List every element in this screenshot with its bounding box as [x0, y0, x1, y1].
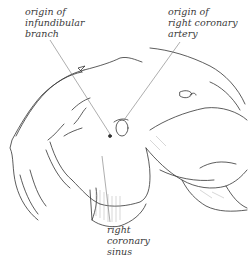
label-line: right [107, 224, 150, 235]
leader-line-rca [124, 42, 180, 120]
label-line: origin of [168, 6, 238, 17]
right-coronary-ostium [116, 120, 128, 136]
leader-line-infundibular [50, 40, 110, 134]
label-line: branch [25, 28, 84, 39]
leader-line-sinus [102, 156, 110, 222]
label-line: artery [168, 28, 238, 39]
label-line: origin of [25, 6, 84, 17]
label-right-coronary-sinus: right coronary sinus [107, 224, 150, 257]
label-infundibular-branch: origin of infundibular branch [25, 6, 84, 39]
label-line: infundibular [25, 17, 84, 28]
label-right-coronary-artery: origin of right coronary artery [168, 6, 238, 39]
outer-wall-contour [10, 72, 82, 220]
label-line: coronary [107, 235, 150, 246]
infundibular-branch-origin [109, 135, 112, 138]
label-line: right coronary [168, 17, 238, 28]
label-line: sinus [107, 246, 150, 257]
